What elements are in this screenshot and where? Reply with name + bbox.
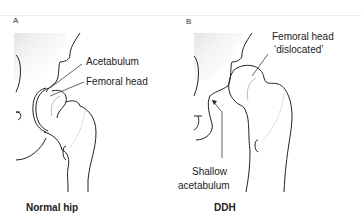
ddh-caption: DDH — [214, 202, 236, 213]
femoral-head-label: Femoral head — [86, 76, 148, 88]
shallow-acetabulum-label-line1: Shallow — [192, 166, 227, 178]
shallow-acetabulum-label-line2: acetabulum — [178, 180, 230, 192]
normal-hip-caption: Normal hip — [26, 202, 78, 213]
panel-a-letter: A — [13, 16, 18, 25]
femoral-head-dislocated-label-line1: Femoral head — [272, 31, 334, 43]
acetabulum-label: Acetabulum — [86, 56, 139, 68]
femoral-head-dislocated-label-line2: ‘dislocated’ — [274, 44, 323, 56]
panel-b-letter: B — [186, 17, 191, 26]
normal-hip-drawing — [14, 33, 96, 192]
